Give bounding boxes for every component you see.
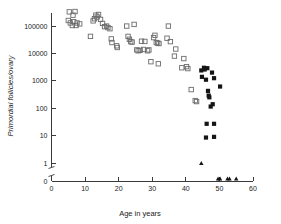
axis-break-icon (49, 167, 55, 177)
x-tick-label-20: 20 (115, 185, 123, 192)
data-point-open-square (172, 54, 176, 58)
series-postmenopausal-markers (199, 161, 238, 181)
data-point-open-square (132, 22, 136, 26)
data-point-filled-square (207, 95, 211, 99)
data-point-filled-square (210, 70, 214, 74)
data-point-filled-square (212, 122, 216, 126)
data-point-triangle (234, 177, 238, 181)
data-point-open-square (126, 34, 130, 38)
series-perimenopausal-markers (199, 66, 222, 140)
data-point-open-square (166, 24, 170, 28)
y-tick-label-100000: 100000 (24, 23, 47, 30)
x-tick-label-50: 50 (216, 185, 224, 192)
y-tick-label-10000: 10000 (28, 50, 48, 57)
y-axis-title: Primordial follicles/ovary (6, 54, 15, 136)
data-point-filled-square (218, 84, 222, 88)
x-tick-label-60: 60 (249, 185, 257, 192)
x-tick-label-30: 30 (148, 185, 156, 192)
data-point-open-square (189, 87, 193, 91)
x-axis-title: Age in years (119, 209, 161, 218)
y-axis-ticks (52, 26, 56, 181)
figure-container: 1000001000010001001010 0102030405060 Age… (0, 0, 281, 224)
data-point-open-square (182, 56, 186, 60)
data-point-filled-square (212, 76, 216, 80)
data-point-open-square (88, 34, 92, 38)
y-tick-label-1: 1 (44, 160, 48, 167)
y-axis-tick-labels: 1000001000010001001010 (24, 23, 47, 185)
axes (49, 13, 254, 181)
x-axis-ticks (52, 177, 254, 181)
data-point-open-square (180, 66, 184, 70)
data-point-filled-square (206, 89, 210, 93)
x-tick-label-10: 10 (81, 185, 89, 192)
data-point-open-square (174, 47, 178, 51)
x-tick-label-0: 0 (50, 185, 54, 192)
data-point-open-square (149, 59, 153, 63)
data-point-filled-square (212, 135, 216, 139)
data-point-filled-square (204, 78, 208, 82)
data-point-filled-square (205, 122, 209, 126)
x-tick-label-40: 40 (182, 185, 190, 192)
data-point-filled-square (205, 66, 209, 70)
scatter-plot: 1000001000010001001010 0102030405060 Age… (0, 0, 281, 224)
y-tick-label-100: 100 (36, 105, 48, 112)
y-tick-label-0: 0 (44, 178, 48, 185)
x-axis-tick-labels: 0102030405060 (50, 185, 257, 192)
data-point-filled-square (211, 102, 215, 106)
data-point-open-square (125, 24, 129, 28)
y-tick-label-1000: 1000 (32, 77, 48, 84)
y-tick-label-10: 10 (40, 132, 48, 139)
series-premenopausal-markers (66, 9, 199, 103)
data-point-filled-square (200, 75, 204, 79)
data-point-triangle (199, 161, 203, 165)
data-point-filled-square (204, 135, 208, 139)
data-point-open-square (156, 62, 160, 66)
